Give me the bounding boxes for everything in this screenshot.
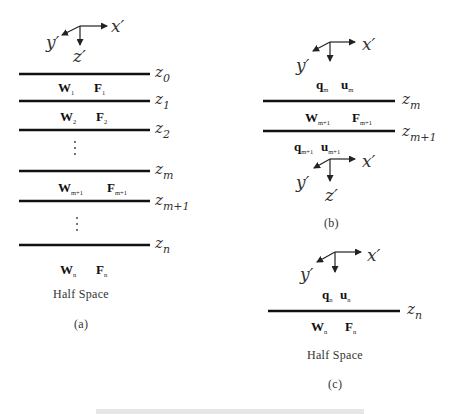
y-axis-label: y′ [45,32,60,52]
y-axis-arrow [317,252,335,262]
ellipsis-lower [76,217,78,231]
z-axis-label: z′ [72,46,86,66]
caption-a: (a) [74,317,88,331]
layer-f-2: F2 [96,109,107,125]
y-axis-arrow [314,159,330,168]
vector-q-n: qn [322,287,333,303]
interface-label-zm: zm [401,90,420,112]
half-space-label-c: Half Space [307,348,363,362]
panel-a: x′ y′ z′ z0 z1 z2 zm zm+1 zn W1 F1 W2 F2… [19,16,190,331]
interface-label-zm1: zm+1 [154,191,190,213]
layer-f-m1: Fm+1 [107,180,127,196]
interface-label-zn: zn [406,300,422,322]
coordinate-axes-a: x′ y′ z′ [45,16,125,66]
vector-u-m: um [341,77,353,93]
caption-c: (c) [328,377,342,391]
z-axis-label: z′ [324,185,338,205]
vector-q-m1: qm+1 [294,139,313,155]
layer-w-1: W1 [58,80,74,96]
caption-b: (b) [324,216,339,230]
layer-w-m1: Wm+1 [305,110,330,126]
layer-w-m1: Wm+1 [58,180,83,196]
bottom-scroll-bar [96,409,364,414]
y-axis-arrow [62,26,80,35]
interface-label-z1: z1 [154,90,170,112]
x-axis-label: x′ [367,245,381,265]
half-space-label-a: Half Space [53,287,109,301]
interface-label-zm1: zm+1 [401,122,437,144]
coordinate-axes-c: x′ y′ [299,245,381,284]
x-axis-label: x′ [111,16,125,36]
layer-w-n: Wn [60,262,77,278]
panel-b: x′ y′ qm um zm zm+1 Wm+1 Fm+1 qm+1 um+1 … [263,34,437,230]
layered-media-diagram: x′ y′ z′ z0 z1 z2 zm zm+1 zn W1 F1 W2 F2… [0,0,450,414]
interface-label-zn: zn [154,234,170,256]
layer-f-1: F1 [94,80,105,96]
y-axis-label: y′ [295,55,310,75]
y-axis-label: y′ [295,172,310,192]
vector-q-m: qm [316,77,328,93]
vector-u-n: un [340,287,351,303]
x-axis-label: x′ [362,151,376,171]
layer-w-n: Wn [311,319,328,335]
layer-w-2: W2 [60,109,76,125]
panel-c: x′ y′ qn un zn Wn Fn Half Space (c) [268,245,422,391]
layer-f-n: Fn [96,262,108,278]
layer-f-m1: Fm+1 [352,110,372,126]
layer-f-n: Fn [345,319,357,335]
interface-label-z2: z2 [154,119,170,141]
interface-label-zm: zm [154,160,173,182]
y-axis-label: y′ [299,264,314,284]
ellipsis-upper [74,141,76,155]
vector-u-m1: um+1 [321,139,340,155]
coordinate-axes-b-top: x′ y′ [295,34,376,75]
coordinate-axes-b-bottom: x′ y′ z′ [295,151,376,205]
interface-label-z0: z0 [154,63,170,85]
x-axis-label: x′ [362,34,376,54]
y-axis-arrow [313,42,330,51]
